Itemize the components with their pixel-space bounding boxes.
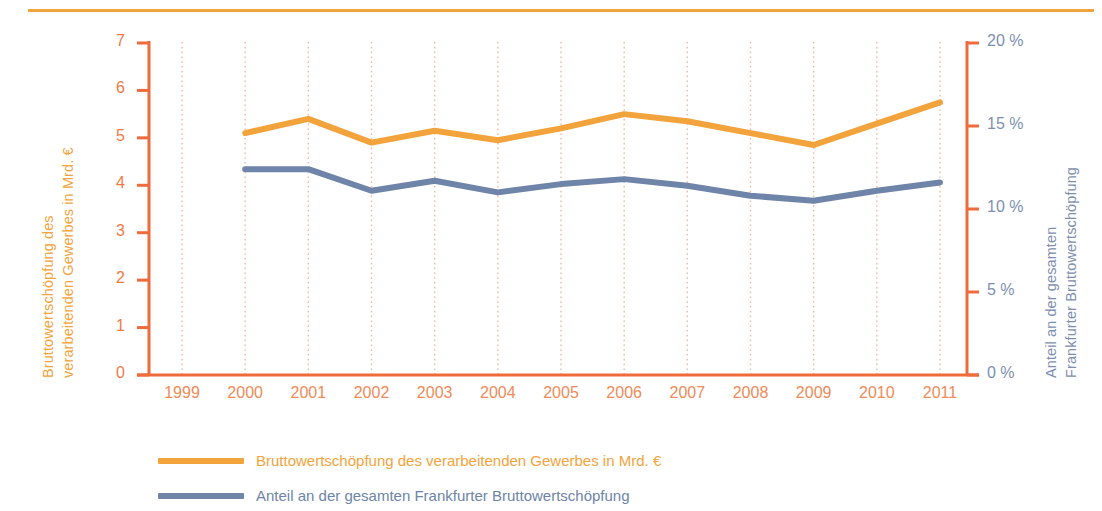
legend-label: Anteil an der gesamten Frankfurter Brutt… [256, 487, 630, 504]
left-tick-label-2: 2 [101, 269, 125, 287]
x-tick-label-2006: 2006 [594, 384, 654, 402]
x-tick-label-1999: 1999 [152, 384, 212, 402]
x-tick-label-2010: 2010 [847, 384, 907, 402]
legend-item-gross-value-added[interactable]: Bruttowertschöpfung des verarbeitenden G… [158, 452, 661, 469]
left-tick-label-5: 5 [101, 127, 125, 145]
axis-lines-group [137, 41, 979, 376]
series-lines-group [245, 102, 940, 200]
left-tick-label-4: 4 [101, 174, 125, 192]
left-tick-label-1: 1 [101, 317, 125, 335]
chart-page: Bruttowertschöpfung des verarbeitenden G… [0, 0, 1102, 511]
right-tick-label-5pct: 5 % [987, 281, 1015, 299]
right-tick-label-0pct: 0 % [987, 364, 1015, 382]
legend-item-share-percent[interactable]: Anteil an der gesamten Frankfurter Brutt… [158, 487, 630, 504]
x-tick-label-2011: 2011 [910, 384, 970, 402]
left-tick-label-3: 3 [101, 222, 125, 240]
left-tick-label-7: 7 [101, 32, 125, 50]
x-tick-label-2005: 2005 [531, 384, 591, 402]
x-tick-label-2007: 2007 [657, 384, 717, 402]
legend-swatch [158, 458, 244, 464]
left-tick-label-6: 6 [101, 79, 125, 97]
right-tick-label-10pct: 10 % [987, 198, 1023, 216]
series-line-share-percent [245, 169, 940, 201]
left-tick-marks [137, 43, 149, 375]
gridlines-group [182, 42, 940, 375]
right-tick-label-20pct: 20 % [987, 32, 1023, 50]
series-line-gross-value-added [245, 102, 940, 145]
legend-label: Bruttowertschöpfung des verarbeitenden G… [256, 452, 661, 469]
x-tick-label-2004: 2004 [468, 384, 528, 402]
x-tick-label-2009: 2009 [784, 384, 844, 402]
right-tick-label-15pct: 15 % [987, 115, 1023, 133]
x-tick-label-2008: 2008 [721, 384, 781, 402]
left-tick-label-0: 0 [101, 364, 125, 382]
x-tick-label-2000: 2000 [215, 384, 275, 402]
right-tick-marks [967, 43, 979, 375]
legend-swatch [158, 493, 244, 499]
x-tick-label-2002: 2002 [342, 384, 402, 402]
x-tick-label-2001: 2001 [278, 384, 338, 402]
chart-plot-area [0, 0, 1102, 511]
x-tick-label-2003: 2003 [405, 384, 465, 402]
